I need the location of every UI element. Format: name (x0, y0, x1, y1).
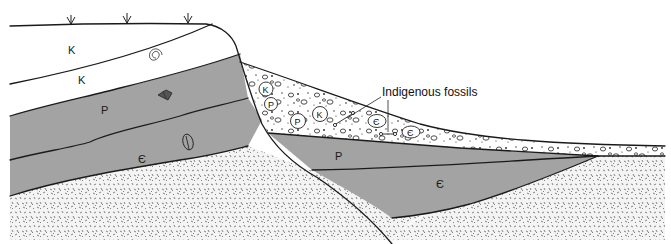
indigenous-fossils-label: Indigenous fossils (382, 85, 477, 99)
clast-k-1: K (259, 82, 273, 96)
clast-p-1: P (265, 98, 278, 111)
svg-text:Є: Є (407, 128, 414, 138)
svg-text:K: K (263, 85, 269, 95)
svg-text:Є: Є (373, 117, 380, 127)
clast-p-2: P (291, 114, 306, 129)
unit-label-cambrian-right: Є (436, 178, 444, 190)
unit-label-p-left: P (101, 104, 108, 116)
unit-label-k-upper: K (68, 44, 76, 56)
unit-label-k-lower: K (78, 74, 86, 86)
clast-cambrian-2: Є (402, 126, 420, 138)
svg-text:P: P (295, 117, 301, 127)
svg-text:P: P (268, 100, 274, 110)
unit-label-p-right: P (335, 150, 342, 162)
geologic-cross-section: K K P Є P Є K P P K Є Є (0, 0, 671, 244)
clast-k-2: K (313, 107, 328, 122)
clast-cambrian-1: Є (368, 115, 386, 128)
svg-text:K: K (317, 110, 323, 120)
plant-icon (67, 13, 192, 24)
unit-label-cambrian-left: Є (138, 153, 146, 165)
